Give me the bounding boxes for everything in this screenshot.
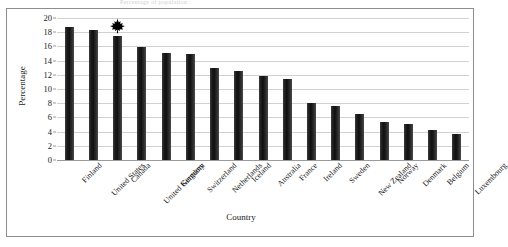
x-axis-category-labels: FinlandUnited StatesCanadaUnited Kingdom…: [57, 161, 469, 213]
y-tick-mark: [53, 18, 56, 19]
bar: [404, 124, 413, 160]
y-tick-mark: [53, 60, 56, 61]
bar: [89, 30, 98, 160]
x-axis-label: France: [298, 161, 320, 183]
y-tick-label: 6: [48, 112, 52, 122]
figure-frame: Percentage 02468101214161820 FinlandUnit…: [6, 8, 474, 237]
x-axis-title: Country: [7, 212, 475, 222]
x-axis-label: Finland: [80, 161, 104, 185]
x-axis-label: Ireland: [322, 161, 344, 183]
y-axis-title: Percentage: [17, 38, 27, 134]
y-tick-mark: [53, 131, 56, 132]
bar: [380, 122, 389, 160]
y-tick-label: 8: [48, 98, 52, 108]
bar: [162, 53, 171, 160]
y-tick-label: 4: [48, 127, 52, 137]
y-tick-label: 2: [48, 141, 52, 151]
bar-chart: Percentage 02468101214161820 FinlandUnit…: [7, 9, 475, 238]
bar: [65, 27, 74, 160]
bar: [210, 68, 219, 160]
x-axis-label: Luxembourg: [473, 161, 508, 196]
x-axis-label: Belgium: [445, 161, 471, 187]
bar: [355, 114, 364, 160]
y-tick-label: 12: [44, 70, 53, 80]
y-tick-mark: [53, 46, 56, 47]
bar: [259, 76, 268, 160]
y-tick-label: 0: [48, 155, 52, 165]
y-tick-mark: [53, 117, 56, 118]
bar: [452, 134, 461, 160]
y-tick-mark: [53, 145, 56, 146]
bar-series: [57, 18, 469, 160]
bar: [234, 71, 243, 160]
y-tick-mark: [53, 160, 56, 161]
y-tick-label: 10: [44, 84, 53, 94]
x-axis-label: Sweden: [347, 161, 371, 185]
y-tick-mark: [53, 32, 56, 33]
y-tick-label: 18: [44, 27, 53, 37]
x-axis-label: Germany: [179, 161, 206, 188]
bar: [186, 54, 195, 160]
y-tick-label: 16: [44, 41, 53, 51]
bar: [283, 79, 292, 160]
x-axis-label: Denmark: [421, 161, 448, 188]
y-tick-mark: [53, 103, 56, 104]
y-tick-label: 20: [44, 13, 53, 23]
bar: [113, 36, 122, 160]
y-tick-label: 14: [44, 56, 53, 66]
y-tick-mark: [53, 89, 56, 90]
bar: [331, 106, 340, 160]
bar: [428, 130, 437, 160]
bar: [137, 47, 146, 160]
bar: [307, 103, 316, 160]
plot-area: 02468101214161820: [57, 18, 469, 160]
y-tick-mark: [53, 74, 56, 75]
clipped-figure-title: Percentage of population: [120, 0, 320, 6]
